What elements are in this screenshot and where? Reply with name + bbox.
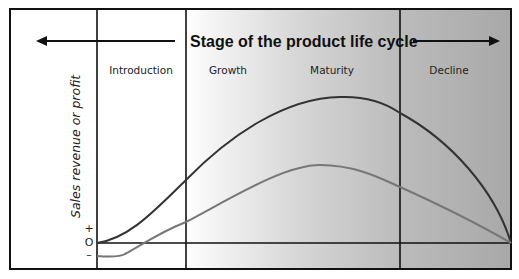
stage-label-introduction: Introduction: [109, 64, 173, 76]
y-axis-label: Sales revenue or profit: [68, 74, 83, 218]
axis-mark-minus: –: [86, 248, 92, 261]
stage-label-decline: Decline: [429, 64, 468, 76]
product-life-cycle-diagram: Stage of the product life cycle Introduc…: [0, 0, 519, 279]
arrow-left-icon: [36, 36, 175, 46]
stage-label-growth: Growth: [209, 64, 247, 76]
axis-mark-plus: +: [84, 222, 93, 235]
stage-label-maturity: Maturity: [310, 64, 354, 76]
diagram-title: Stage of the product life cycle: [190, 33, 418, 50]
